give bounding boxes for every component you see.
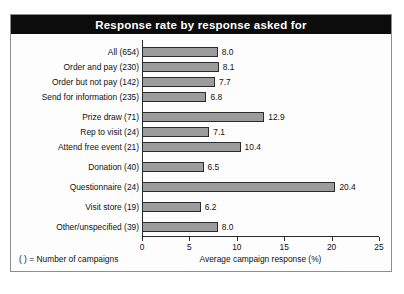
bar-category-label: Other/unspecified (39) [11,220,139,235]
bar-value-label: 12.9 [268,110,284,124]
bar-track: 8.1 [142,60,391,75]
bar [142,202,201,212]
bar-value-label: 20.4 [339,180,355,194]
bar-track: 12.9 [142,110,391,125]
bar-value-label: 6.2 [205,200,217,214]
bar-value-label: 8.0 [222,45,234,59]
bar [142,142,241,152]
bar-value-label: 7.1 [213,125,225,139]
x-tick [189,237,190,241]
x-tick [379,237,380,241]
bar-value-label: 7.7 [219,75,231,89]
chart-title: Response rate by response asked for [95,19,307,31]
bar-row: Order but not pay (142)7.7 [11,75,391,90]
bar [142,112,264,122]
x-tick-label: 25 [374,242,383,252]
bar-value-label: 8.1 [223,60,235,74]
bar-category-label: Send for information (235) [11,90,139,105]
x-tick [332,237,333,241]
bar-category-label: Rep to visit (24) [11,125,139,140]
bar-row: Questionnaire (24)20.4 [11,180,391,195]
bar [142,47,218,57]
x-tick-label: 20 [327,242,336,252]
bar-value-label: 6.5 [208,160,220,174]
bar-row: Prize draw (71)12.9 [11,110,391,125]
bar-track: 10.4 [142,140,391,155]
bar-track: 8.0 [142,45,391,60]
bar-category-label: Order and pay (230) [11,60,139,75]
bar-category-label: Questionnaire (24) [11,180,139,195]
bar-row: Order and pay (230)8.1 [11,60,391,75]
bar-category-label: Donation (40) [11,160,139,175]
bar-row: Donation (40)6.5 [11,160,391,175]
chart-figure: Response rate by response asked for All … [10,14,392,272]
bar-track: 7.7 [142,75,391,90]
bar [142,182,335,192]
bar [142,92,206,102]
bar-value-label: 6.8 [210,90,222,104]
chart-note: ( ) = Number of campaigns [19,254,118,264]
bar [142,162,204,172]
x-tick [142,237,143,241]
bar-rows: All (654)8.0Order and pay (230)8.1Order … [11,45,391,235]
bar-category-label: Order but not pay (142) [11,75,139,90]
bar-row: Visit store (19)6.2 [11,200,391,215]
bar-track: 20.4 [142,180,391,195]
bar-track: 7.1 [142,125,391,140]
bar-category-label: Attend free event (21) [11,140,139,155]
bar-value-label: 10.4 [245,140,261,154]
bar-category-label: Visit store (19) [11,200,139,215]
bar [142,77,215,87]
bar-track: 6.5 [142,160,391,175]
x-tick-label: 10 [232,242,241,252]
x-tick-label: 15 [280,242,289,252]
bar-track: 8.0 [142,220,391,235]
x-axis-line [142,236,379,237]
bar [142,62,219,72]
x-tick [284,237,285,241]
chart-title-bar: Response rate by response asked for [11,15,391,34]
bar-row: All (654)8.0 [11,45,391,60]
y-axis-line [142,40,143,236]
bar-value-label: 8.0 [222,220,234,234]
bar-category-label: Prize draw (71) [11,110,139,125]
bar-row: Send for information (235)6.8 [11,90,391,105]
bar-track: 6.2 [142,200,391,215]
x-tick [237,237,238,241]
x-tick-label: 5 [187,242,192,252]
bar-category-label: All (654) [11,45,139,60]
plot-area: All (654)8.0Order and pay (230)8.1Order … [11,34,391,271]
x-tick-label: 0 [140,242,145,252]
x-axis-label: Average campaign response (%) [200,254,322,264]
bar [142,222,218,232]
bar-row: Other/unspecified (39)8.0 [11,220,391,235]
bar-row: Attend free event (21)10.4 [11,140,391,155]
bar-track: 6.8 [142,90,391,105]
bar-row: Rep to visit (24)7.1 [11,125,391,140]
bar [142,127,209,137]
